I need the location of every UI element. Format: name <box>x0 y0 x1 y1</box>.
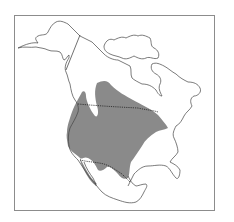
north-america-map <box>0 0 234 222</box>
